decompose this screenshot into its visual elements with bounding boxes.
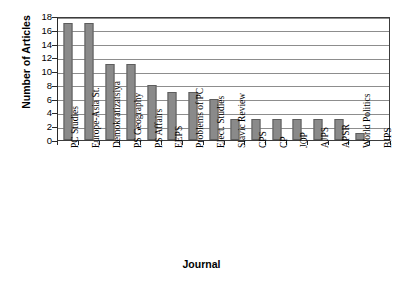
bar-slot — [266, 18, 287, 140]
x-category-label: Problems of PC — [196, 88, 206, 148]
x-category-label: CP — [280, 136, 290, 148]
y-tick-label: 16 — [22, 26, 52, 36]
y-tick-label: 8 — [22, 81, 52, 91]
y-tick-label: 10 — [22, 67, 52, 77]
y-tick-label: 14 — [22, 40, 52, 50]
y-tick-mark — [52, 17, 57, 18]
x-category-label: PS Affairs — [155, 109, 165, 148]
x-category-label: BJPS — [384, 127, 394, 148]
x-axis-title: Journal — [0, 258, 403, 270]
y-tick-mark — [52, 127, 57, 128]
bar-slot — [245, 18, 266, 140]
bar-slot — [329, 18, 350, 140]
bar-slot — [162, 18, 183, 140]
x-category-label: EEPS — [175, 126, 185, 148]
x-category-label: Elect. Studies — [217, 96, 227, 148]
y-tick-label: 12 — [22, 53, 52, 63]
y-tick-mark — [52, 45, 57, 46]
y-tick-mark — [52, 100, 57, 101]
y-tick-mark — [52, 58, 57, 59]
x-category-label: JOP — [300, 132, 310, 148]
x-category-label: CPS — [259, 131, 269, 148]
x-category-label: Slavic Review — [238, 93, 248, 148]
y-tick-label: 6 — [22, 95, 52, 105]
x-category-label: APSR — [342, 124, 352, 148]
bar-slot — [287, 18, 308, 140]
y-tick-mark — [52, 113, 57, 114]
y-tick-label: 4 — [22, 108, 52, 118]
y-tick-label: 0 — [22, 136, 52, 146]
y-tick-mark — [52, 72, 57, 73]
x-category-label: Demokratizatsiya — [113, 81, 123, 148]
x-category-label: Europe-Asia St. — [92, 87, 102, 148]
x-tick-mark — [57, 141, 58, 145]
y-tick-label: 18 — [22, 12, 52, 22]
x-category-label: AJPS — [321, 127, 331, 148]
bar-slot — [308, 18, 329, 140]
y-tick-label: 2 — [22, 122, 52, 132]
y-tick-mark — [52, 86, 57, 87]
y-tick-mark — [52, 31, 57, 32]
x-category-label: PC Studies — [71, 106, 81, 148]
x-category-label: World Politics — [363, 94, 373, 148]
bar-slot — [370, 18, 391, 140]
x-category-label: PS Geography — [134, 93, 144, 148]
bar-chart: Number of Articles 024681012141618 PC St… — [0, 0, 403, 283]
